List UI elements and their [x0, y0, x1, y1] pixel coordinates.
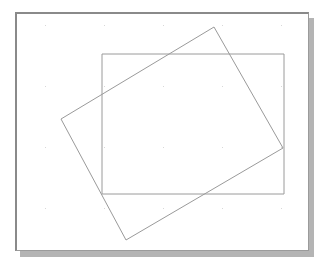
drawing-canvas-surface[interactable]: [17, 14, 308, 250]
app-root: [0, 0, 314, 266]
shapes-layer: [17, 14, 308, 250]
drawing-canvas-frame[interactable]: [15, 12, 309, 251]
rotated-quadrilateral[interactable]: [61, 27, 283, 240]
axis-aligned-rectangle[interactable]: [102, 54, 284, 194]
